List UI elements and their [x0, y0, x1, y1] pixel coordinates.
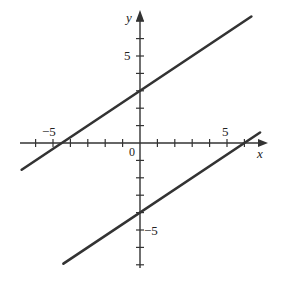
y-axis-label: y [124, 10, 132, 25]
line-lower [63, 133, 260, 264]
y-axis-arrow-icon [136, 10, 144, 21]
x-tick-label-5: 5 [222, 124, 229, 139]
y-tick-label-5: 5 [124, 48, 131, 63]
y-tick-label-neg5: −5 [144, 223, 158, 238]
coordinate-plane: x y 0 −5 5 5 −5 [0, 0, 281, 282]
origin-label: 0 [129, 145, 135, 159]
x-axis-label: x [256, 146, 263, 161]
x-tick-label-neg5: −5 [42, 124, 56, 139]
line-upper [22, 17, 252, 170]
plotted-lines [22, 17, 260, 264]
